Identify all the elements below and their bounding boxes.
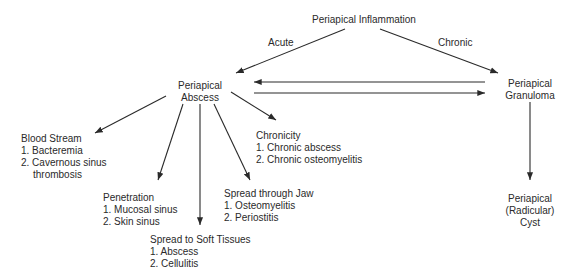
edge-label-acute: Acute xyxy=(268,37,294,49)
node-line: Cyst xyxy=(495,217,565,229)
arrow-chronic xyxy=(380,29,498,73)
list-item: 2. Skin sinus xyxy=(103,216,177,228)
list-item: 1. Mucosal sinus xyxy=(103,204,177,216)
node-periapical-abscess: Periapical Abscess xyxy=(170,80,230,104)
node-title: Chronicity xyxy=(256,130,362,142)
node-chronicity: Chronicity 1. Chronic abscess 2. Chronic… xyxy=(256,130,362,166)
node-line: (Radicular) xyxy=(495,205,565,217)
arrow-acute xyxy=(236,29,345,73)
node-spread-soft-tissues: Spread to Soft Tissues 1. Abscess 2. Cel… xyxy=(150,234,251,270)
node-line: Periapical xyxy=(170,80,230,92)
node-title: Spread to Soft Tissues xyxy=(150,234,251,246)
node-periapical-granuloma: Periapical Granuloma xyxy=(495,78,565,102)
list-item: 1. Osteomyelitis xyxy=(224,200,314,212)
node-title: Blood Stream xyxy=(21,133,107,145)
list-item: 1. Chronic abscess xyxy=(256,142,362,154)
node-line: Periapical xyxy=(495,78,565,90)
node-line: Granuloma xyxy=(495,90,565,102)
node-periapical-inflammation: Periapical Inflammation xyxy=(312,14,416,26)
node-title: Spread through Jaw xyxy=(224,188,314,200)
list-item: thrombosis xyxy=(21,169,107,181)
arrow-to-penetration xyxy=(158,104,183,180)
node-blood-stream: Blood Stream 1. Bacteremia 2. Cavernous … xyxy=(21,133,107,181)
node-title: Penetration xyxy=(103,192,177,204)
node-penetration: Penetration 1. Mucosal sinus 2. Skin sin… xyxy=(103,192,177,228)
node-line: Periapical xyxy=(495,193,565,205)
node-line: Abscess xyxy=(170,92,230,104)
list-item: 1. Bacteremia xyxy=(21,145,107,157)
list-item: 2. Cellulitis xyxy=(150,258,251,270)
list-item: 2. Chronic osteomyelitis xyxy=(256,154,362,166)
arrow-to-chronicity xyxy=(231,92,276,120)
node-periapical-cyst: Periapical (Radicular) Cyst xyxy=(495,193,565,229)
list-item: 1. Abscess xyxy=(150,246,251,258)
arrow-to-blood-stream xyxy=(95,96,166,133)
edge-label-chronic: Chronic xyxy=(438,37,472,49)
list-item: 2. Cavernous sinus xyxy=(21,157,107,169)
arrow-to-jaw xyxy=(214,104,250,180)
list-item: 2. Periostitis xyxy=(224,212,314,224)
node-spread-through-jaw: Spread through Jaw 1. Osteomyelitis 2. P… xyxy=(224,188,314,224)
